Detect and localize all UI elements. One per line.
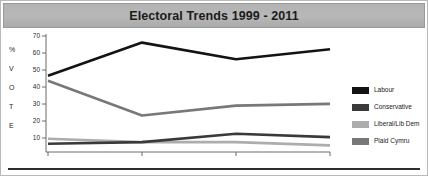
chart-title: Electoral Trends 1999 - 2011 xyxy=(129,9,299,23)
legend-label: Labour xyxy=(374,87,394,94)
legend-label: Plaid Cymru xyxy=(374,138,409,145)
legend-swatch-icon xyxy=(352,138,369,145)
chart-screenshot: Electoral Trends 1999 - 2011 % V O T E 7… xyxy=(0,0,428,176)
chart-series-group xyxy=(48,43,330,146)
chart-series-line-plaid-cymru xyxy=(48,81,330,116)
chart-title-banner: Electoral Trends 1999 - 2011 xyxy=(3,3,425,28)
legend-label: Conservative xyxy=(374,104,412,111)
bottom-divider xyxy=(8,168,420,170)
legend-item-labour: Labour xyxy=(352,82,426,99)
legend-swatch-icon xyxy=(352,87,369,94)
chart-series-line-labour xyxy=(48,43,330,76)
legend-item-plaid-cymru: Plaid Cymru xyxy=(352,133,426,150)
legend-swatch-icon xyxy=(352,121,369,128)
chart-legend: Labour Conservative Liberal/Lib Dem Plai… xyxy=(352,82,426,150)
legend-label: Liberal/Lib Dem xyxy=(374,121,420,128)
legend-swatch-icon xyxy=(352,104,369,111)
legend-item-conservative: Conservative xyxy=(352,99,426,116)
chart-plot-area: % V O T E 70 60 50 40 30 20 10 xyxy=(0,28,428,158)
legend-item-liberal-lib-dem: Liberal/Lib Dem xyxy=(352,116,426,133)
